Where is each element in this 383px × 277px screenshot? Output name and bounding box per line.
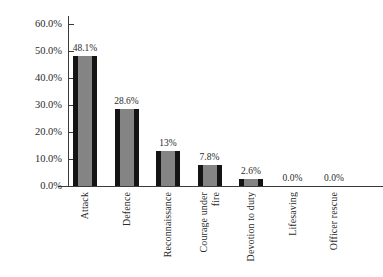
bar-slot: 0.0% <box>312 14 356 186</box>
y-axis-tick-label: 0.0% <box>10 181 62 192</box>
x-axis-category-label-text: Defence <box>105 192 149 272</box>
bar-slot: 28.6% <box>105 14 149 186</box>
x-axis-category-label-text: Devotion to duty <box>229 192 273 272</box>
x-axis-category-label-text: Courage underfire <box>188 192 232 272</box>
x-axis-category-label-text: Reconnaissance <box>146 192 190 272</box>
x-axis-category-label-text: Attack <box>63 192 107 272</box>
x-axis-category-label: Officer rescue <box>312 190 356 275</box>
x-axis-category-label-text: Officer rescue <box>312 192 356 272</box>
bar-chart: 0.0%10.0%20.0%30.0%40.0%50.0%60.0% 48.1%… <box>0 0 383 277</box>
bar[interactable] <box>239 179 263 186</box>
x-axis-category-label-line: Officer rescue <box>328 192 340 250</box>
y-axis-tick-label: 10.0% <box>10 154 62 165</box>
bar-slot: 0.0% <box>271 14 315 186</box>
x-axis-category-label-line: Devotion to duty <box>245 192 257 261</box>
y-axis-tick-label: 30.0% <box>10 100 62 111</box>
x-axis-category-label: Lifesaving <box>271 190 315 275</box>
y-axis-tick <box>69 186 74 187</box>
x-axis-category-label: Devotion to duty <box>229 190 273 275</box>
x-axis-category-label: Reconnaissance <box>146 190 190 275</box>
bar-value-label: 0.0% <box>304 173 364 183</box>
x-axis-category-label-text: Lifesaving <box>271 192 315 272</box>
x-axis-category-label-line: Courage under <box>198 192 210 252</box>
y-axis-tick-label: 40.0% <box>10 73 62 84</box>
x-axis-line <box>58 186 383 187</box>
bar-slot: 2.6% <box>229 14 273 186</box>
y-axis-tick-label: 20.0% <box>10 127 62 138</box>
x-axis-category-label-line: Reconnaissance <box>162 192 174 257</box>
x-axis-category-label-line: fire <box>210 192 222 206</box>
x-axis-category-label-line: Defence <box>121 192 133 226</box>
x-axis-category-label-line: Lifesaving <box>287 192 299 236</box>
y-axis-tick-label: 60.0% <box>10 19 62 30</box>
x-axis-category-label: Courage underfire <box>188 190 232 275</box>
bar[interactable] <box>198 165 222 186</box>
x-axis-category-label-line: Attack <box>79 192 91 219</box>
bar[interactable] <box>73 56 97 186</box>
x-axis-category-label: Attack <box>63 190 107 275</box>
bar[interactable] <box>115 109 139 186</box>
x-axis-category-label: Defence <box>105 190 149 275</box>
bar[interactable] <box>156 151 180 186</box>
bar-slot: 7.8% <box>188 14 232 186</box>
